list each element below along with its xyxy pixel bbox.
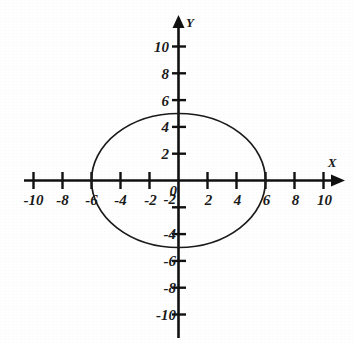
x-axis-label: X <box>327 155 337 170</box>
y-tick-label: 2 <box>161 146 170 162</box>
y-axis-label: Y <box>186 15 195 30</box>
origin-label: 0 <box>170 183 178 199</box>
x-tick-label: -10 <box>24 192 44 208</box>
y-tick-label: -4 <box>164 226 177 242</box>
x-tick-label: -8 <box>56 192 69 208</box>
y-axis-arrow-icon <box>173 15 185 28</box>
y-tick-label: -10 <box>156 307 176 323</box>
y-tick-label: 10 <box>154 39 170 55</box>
coordinate-plot-figure: -10 -8 -6 -4 -2 2 4 6 8 10 10 8 6 4 2 -2… <box>0 0 353 343</box>
y-tick-label: 8 <box>162 66 170 82</box>
x-tick-label: -2 <box>144 192 157 208</box>
y-tick-label: -6 <box>164 253 177 269</box>
x-tick-label: 10 <box>317 192 333 208</box>
y-tick-label: 6 <box>162 93 170 109</box>
plot-canvas: -10 -8 -6 -4 -2 2 4 6 8 10 10 8 6 4 2 -2… <box>0 0 353 343</box>
x-tick-label: -6 <box>85 192 98 208</box>
x-tick-label: 8 <box>292 192 300 208</box>
x-tick-label: -4 <box>114 192 127 208</box>
x-axis-arrow-icon <box>331 175 345 187</box>
x-tick-label: 2 <box>204 192 213 208</box>
x-tick-label: 6 <box>263 192 271 208</box>
y-tick-label: 4 <box>161 119 170 135</box>
x-tick-label: 4 <box>233 192 242 208</box>
y-tick-label: -8 <box>164 280 177 296</box>
